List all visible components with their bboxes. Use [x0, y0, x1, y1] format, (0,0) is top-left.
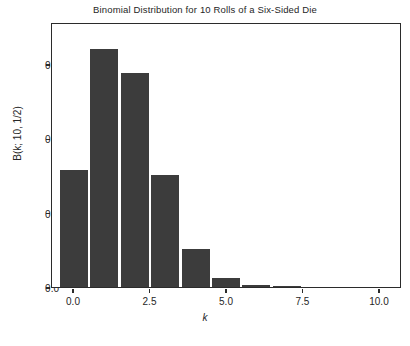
- x-tick-label: 7.5: [296, 296, 310, 307]
- bar: [60, 170, 88, 287]
- chart-title: Binomial Distribution for 10 Rolls of a …: [0, 4, 410, 15]
- bar: [212, 278, 240, 287]
- x-axis-label: k: [0, 312, 410, 323]
- bar: [90, 49, 118, 287]
- bar: [273, 286, 301, 287]
- x-tick-label: 0.0: [66, 296, 80, 307]
- bar: [151, 175, 179, 287]
- x-tick-mark: [302, 289, 303, 293]
- x-tick-label: 5.0: [219, 296, 233, 307]
- figure-canvas: Binomial Distribution for 10 Rolls of a …: [0, 0, 410, 346]
- bar: [242, 285, 270, 287]
- x-tick-mark: [149, 289, 150, 293]
- bar: [182, 249, 210, 287]
- x-tick-mark: [225, 289, 226, 293]
- x-tick-mark: [378, 289, 379, 293]
- y-axis-label: B(k; 10, 1/2): [12, 79, 23, 189]
- x-tick-label: 2.5: [143, 296, 157, 307]
- x-tick-label: 10.0: [369, 296, 388, 307]
- bar-series: [52, 24, 400, 287]
- bar: [121, 73, 149, 287]
- x-tick-mark: [72, 289, 73, 293]
- plot-area: [51, 23, 401, 288]
